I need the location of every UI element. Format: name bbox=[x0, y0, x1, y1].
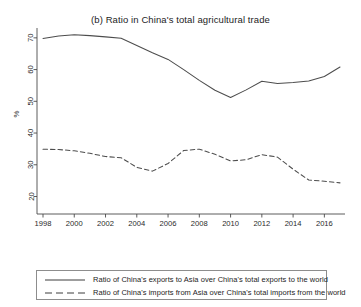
svg-text:70: 70 bbox=[27, 34, 36, 42]
svg-text:2008: 2008 bbox=[191, 219, 208, 228]
legend-label-imports: Ratio of China's imports from Asia over … bbox=[93, 288, 346, 297]
legend-swatch-dashed bbox=[43, 289, 87, 297]
series-line-exports bbox=[43, 35, 340, 98]
series-group bbox=[43, 35, 340, 183]
legend-label-exports: Ratio of China's exports to Asia over Ch… bbox=[93, 275, 328, 284]
svg-text:2014: 2014 bbox=[285, 219, 302, 228]
svg-text:2006: 2006 bbox=[160, 219, 177, 228]
line-chart-plot: 203040506070%199820002002200420062008201… bbox=[0, 0, 361, 307]
svg-text:60: 60 bbox=[27, 65, 36, 73]
svg-text:30: 30 bbox=[27, 161, 36, 169]
svg-text:40: 40 bbox=[27, 129, 36, 137]
series-line-imports bbox=[43, 149, 340, 183]
figure-container: (b) Ratio in China's total agricultural … bbox=[0, 0, 361, 307]
legend-item-exports: Ratio of China's exports to Asia over Ch… bbox=[37, 273, 326, 286]
svg-text:2002: 2002 bbox=[97, 219, 114, 228]
chart-legend: Ratio of China's exports to Asia over Ch… bbox=[36, 270, 327, 300]
svg-text:1998: 1998 bbox=[35, 219, 52, 228]
svg-text:%: % bbox=[12, 110, 21, 117]
svg-text:2004: 2004 bbox=[128, 219, 145, 228]
svg-text:2016: 2016 bbox=[316, 219, 333, 228]
legend-item-imports: Ratio of China's imports from Asia over … bbox=[37, 286, 326, 299]
svg-text:20: 20 bbox=[27, 192, 36, 200]
svg-text:2010: 2010 bbox=[222, 219, 239, 228]
svg-text:50: 50 bbox=[27, 97, 36, 105]
svg-text:2012: 2012 bbox=[253, 219, 270, 228]
legend-swatch-solid bbox=[43, 276, 87, 284]
axes-group: 203040506070%199820002002200420062008201… bbox=[12, 28, 346, 228]
svg-text:2000: 2000 bbox=[66, 219, 83, 228]
